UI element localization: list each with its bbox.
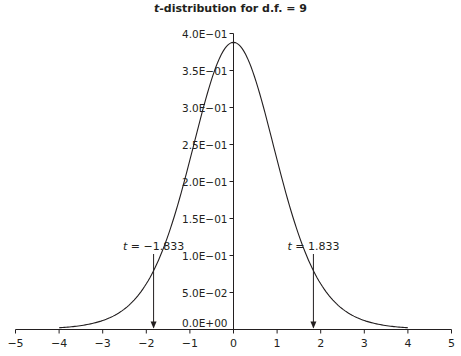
x-tick-label: −3 bbox=[95, 337, 111, 350]
x-tick-label: −1 bbox=[182, 337, 198, 350]
y-tick-label: 0.0E+00 bbox=[182, 317, 228, 329]
critical-value-upper: t = 1.833 bbox=[287, 240, 339, 329]
critical-value-label: t = −1.833 bbox=[123, 240, 184, 253]
x-tick-label: 3 bbox=[361, 337, 368, 350]
critical-value-label: t = 1.833 bbox=[287, 240, 339, 253]
y-tick-label: 1.5E−01 bbox=[182, 213, 228, 225]
y-tick-label: 5.0E−02 bbox=[182, 287, 228, 299]
arrow-down-icon bbox=[310, 322, 316, 329]
axes: −5−4−3−2−10123450.0E+005.0E−021.0E−011.5… bbox=[7, 28, 455, 350]
y-tick-label: 2.5E−01 bbox=[182, 139, 228, 151]
arrow-down-icon bbox=[151, 322, 157, 329]
critical-value-annotations: t = −1.833t = 1.833 bbox=[123, 240, 339, 329]
y-tick-label: 2.0E−01 bbox=[182, 176, 228, 188]
x-tick-label: 4 bbox=[404, 337, 411, 350]
x-tick-label: 5 bbox=[448, 337, 455, 350]
t-distribution-chart: −5−4−3−2−10123450.0E+005.0E−021.0E−011.5… bbox=[0, 0, 461, 356]
x-tick-label: 1 bbox=[274, 337, 281, 350]
y-tick-label: 3.5E−01 bbox=[182, 65, 228, 77]
x-tick-label: −4 bbox=[51, 337, 67, 350]
x-tick-label: 2 bbox=[317, 337, 324, 350]
x-tick-label: −5 bbox=[7, 337, 23, 350]
y-tick-label: 4.0E−01 bbox=[182, 28, 228, 40]
x-tick-label: 0 bbox=[230, 337, 237, 350]
x-tick-label: −2 bbox=[138, 337, 154, 350]
critical-value-lower: t = −1.833 bbox=[123, 240, 184, 329]
y-tick-label: 1.0E−01 bbox=[182, 250, 228, 262]
